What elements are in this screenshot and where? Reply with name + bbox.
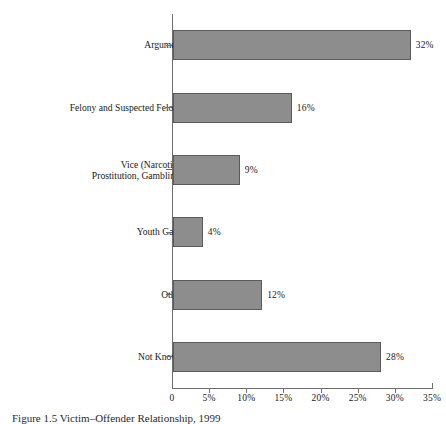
bar-value-label: 9% [245, 164, 258, 175]
bar-row: Other12% [0, 277, 441, 313]
bar-value-label: 32% [416, 40, 434, 51]
bar-value-label: 16% [297, 102, 315, 113]
bar-value-label: 12% [267, 289, 285, 300]
x-axis-tick-label: 30% [375, 393, 415, 404]
bar-chart: 05%10%15%20%25%30%35% Argument32%Felony … [0, 0, 441, 400]
category-label: Argument [0, 27, 183, 63]
bar [173, 93, 292, 123]
x-axis-tick-label: 5% [189, 393, 229, 404]
bar-row: Youth Gang4% [0, 214, 441, 250]
category-tick [166, 356, 172, 357]
category-label: Felony and Suspected Felony [0, 90, 183, 126]
category-tick [166, 169, 172, 170]
x-axis-tick [172, 383, 173, 389]
bar-row: Felony and Suspected Felony16% [0, 90, 441, 126]
bar [173, 155, 240, 185]
x-axis-tick-label: 20% [301, 393, 341, 404]
bar-row: Not Known28% [0, 339, 441, 375]
category-label-text: Other [0, 289, 183, 301]
category-label: Youth Gang [0, 214, 183, 250]
x-axis-tick [432, 383, 433, 389]
category-tick [166, 45, 172, 46]
x-axis-tick-label: 35% [412, 393, 446, 404]
x-axis-tick-label: 25% [338, 393, 378, 404]
category-tick [166, 107, 172, 108]
category-label-text: Youth Gang [0, 226, 183, 238]
category-label-text: Argument [0, 39, 183, 51]
bar [173, 280, 262, 310]
bar-row: Argument32% [0, 27, 441, 63]
bar-value-label: 4% [208, 227, 221, 238]
y-axis-spine [172, 14, 173, 388]
category-label: Not Known [0, 339, 183, 375]
category-label: Other [0, 277, 183, 313]
category-label-text: Felony and Suspected Felony [0, 102, 183, 114]
x-axis-tick-label: 0 [152, 393, 192, 404]
figure-caption: Figure 1.5 Victim–Offender Relationship,… [12, 412, 432, 424]
category-label-text: Vice (Narcotics, Prostitution, Gambling) [0, 158, 183, 181]
category-tick [166, 232, 172, 233]
category-tick [166, 294, 172, 295]
x-axis-tick-label: 10% [226, 393, 266, 404]
category-label: Vice (Narcotics, Prostitution, Gambling) [0, 152, 183, 188]
category-label-text: Not Known [0, 351, 183, 363]
bar-value-label: 28% [386, 351, 404, 362]
bar-row: Vice (Narcotics, Prostitution, Gambling)… [0, 152, 441, 188]
bar [173, 30, 411, 60]
x-axis-tick-label: 15% [263, 393, 303, 404]
bar [173, 217, 203, 247]
bar [173, 342, 381, 372]
x-axis-spine [172, 388, 432, 389]
